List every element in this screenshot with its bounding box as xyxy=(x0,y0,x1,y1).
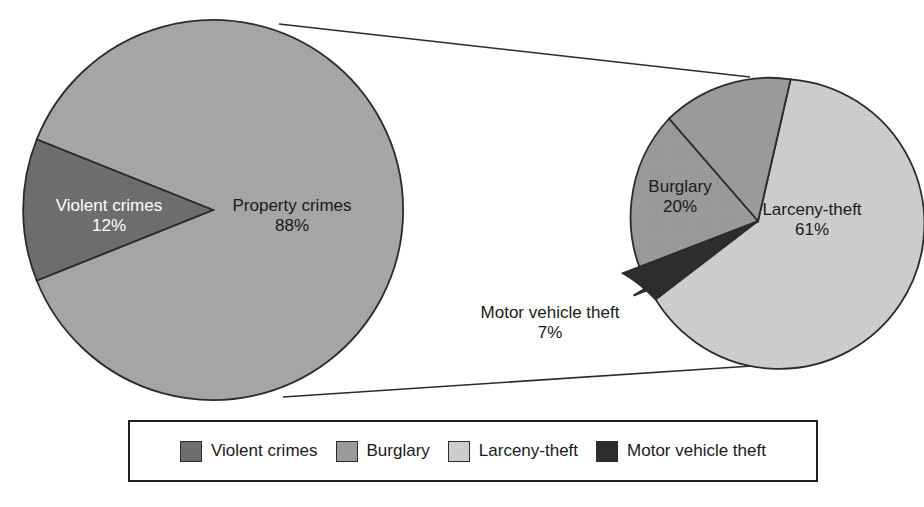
label-property-crimes-name: Property crimes xyxy=(212,196,372,216)
label-burglary-name: Burglary xyxy=(628,177,732,197)
label-larceny-theft-percent: 61% xyxy=(742,220,882,240)
legend-item-label: Larceny-theft xyxy=(479,441,578,461)
legend-item: Larceny-theft xyxy=(448,441,578,462)
callout-line-bottom xyxy=(283,366,752,397)
legend-swatch-icon xyxy=(336,441,358,462)
legend-item: Motor vehicle theft xyxy=(596,441,766,462)
legend-item-label: Burglary xyxy=(367,441,430,461)
label-burglary-percent: 20% xyxy=(628,197,732,217)
label-violent-crimes-percent: 12% xyxy=(34,216,184,236)
label-violent-crimes: Violent crimes 12% xyxy=(34,196,184,236)
label-larceny-theft: Larceny-theft 61% xyxy=(742,200,882,240)
legend-swatch-icon xyxy=(596,441,618,462)
legend-item: Violent crimes xyxy=(180,441,317,462)
legend-swatch-icon xyxy=(180,441,202,462)
label-motor-vehicle-theft-name: Motor vehicle theft xyxy=(460,303,640,323)
legend: Violent crimesBurglaryLarceny-theftMotor… xyxy=(128,420,818,482)
label-motor-vehicle-theft-percent: 7% xyxy=(460,323,640,343)
legend-item: Burglary xyxy=(336,441,430,462)
label-larceny-theft-name: Larceny-theft xyxy=(742,200,882,220)
legend-item-label: Motor vehicle theft xyxy=(627,441,766,461)
label-property-crimes: Property crimes 88% xyxy=(212,196,372,236)
callout-line-top xyxy=(279,24,750,77)
legend-row: Violent crimesBurglaryLarceny-theftMotor… xyxy=(180,441,766,462)
pie-chart-figure: Violent crimes 12% Property crimes 88% B… xyxy=(0,0,924,507)
label-violent-crimes-name: Violent crimes xyxy=(34,196,184,216)
label-property-crimes-percent: 88% xyxy=(212,216,372,236)
legend-item-label: Violent crimes xyxy=(211,441,317,461)
label-burglary: Burglary 20% xyxy=(628,177,732,217)
legend-swatch-icon xyxy=(448,441,470,462)
label-motor-vehicle-theft: Motor vehicle theft 7% xyxy=(460,303,640,343)
